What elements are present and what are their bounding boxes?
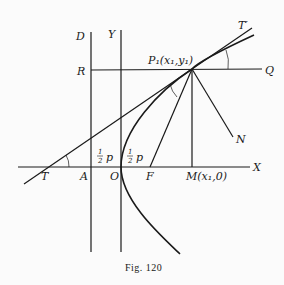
label-y: Y	[108, 28, 117, 41]
label-t: T	[41, 170, 50, 183]
label-x: X	[252, 161, 262, 174]
label-a: A	[79, 170, 88, 183]
label-p1: P₁(x₁,y₁)	[147, 54, 193, 67]
line-rq	[91, 69, 262, 70]
angle-arc-p	[170, 84, 177, 97]
half-p-right-var: p	[136, 151, 143, 164]
label-t-prime: T′	[238, 19, 248, 32]
half-p-right-denominator: 2	[127, 157, 133, 165]
half-p-right-numerator: 1	[128, 148, 132, 156]
label-m: M(x₁,0)	[185, 170, 227, 183]
figure-caption: Fig. 120	[125, 262, 162, 273]
label-o: O	[110, 170, 119, 183]
half-p-left-var: p	[106, 151, 113, 164]
label-r: R	[76, 65, 85, 78]
label-n: N	[235, 133, 246, 146]
angle-arc-q	[226, 50, 228, 69]
parabola-curve	[121, 35, 254, 254]
label-d: D	[75, 30, 85, 43]
label-f: F	[145, 170, 154, 183]
half-p-left-denominator: 2	[97, 157, 103, 165]
label-q: Q	[265, 64, 274, 77]
normal-line	[192, 69, 233, 137]
angle-arc-t	[66, 155, 69, 167]
half-p-left-numerator: 1	[98, 148, 102, 156]
parabola-tangent-diagram: D Y R Q T′ P₁(x₁,y₁) N T A O F M(x₁,0) X…	[0, 0, 284, 285]
